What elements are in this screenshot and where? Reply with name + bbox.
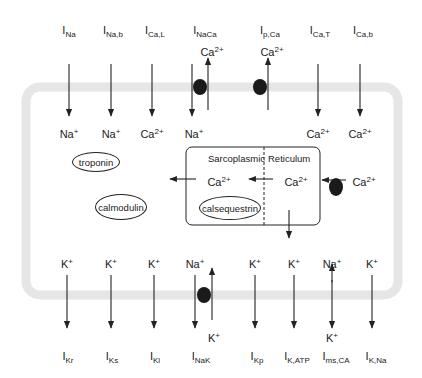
label-imsca: Ims,CA (322, 350, 349, 367)
ion-inaca-in: Na+ (185, 126, 204, 140)
label-ical: ICa,L (145, 24, 165, 41)
label-iki: IKl (150, 350, 160, 367)
ion-icab-in: Ca2+ (348, 126, 371, 140)
ion-imsca-in: Na+ (323, 256, 342, 270)
ion-iki-in: K+ (148, 256, 160, 270)
ion-inak-in: Na+ (186, 256, 205, 270)
pca-pump-icon (253, 79, 267, 95)
label-ikr: IKr (62, 350, 73, 367)
serca-pump-icon (329, 178, 343, 196)
ion-ikna-in: K+ (366, 256, 378, 270)
calmodulin-buffer: calmodulin (95, 194, 147, 220)
label-icat: ICa,T (310, 24, 330, 41)
label-ikatp: IK,ATP (284, 350, 310, 367)
cell-diagram: INa INa,b ICa,L INaCa Ip,Ca ICa,T ICa,b … (0, 0, 422, 378)
label-inak: INaK (192, 350, 211, 367)
ion-imsca-out: K+ (326, 330, 338, 344)
ca-cyto: Ca2+ (352, 174, 375, 188)
ion-inab-in: Na+ (102, 126, 121, 140)
ion-ina-in: Na+ (60, 126, 79, 140)
ion-inak-out: K+ (208, 330, 220, 344)
ca-nsr: Ca2+ (284, 174, 307, 188)
calsequestrin-buffer: calsequestrin (199, 196, 261, 220)
label-ikna: IK,Na (366, 350, 387, 367)
sr-label-left: Sarcoplasmic (208, 153, 265, 164)
ion-naca-out: Ca2+ (200, 44, 223, 58)
label-inab: INa,b (103, 24, 123, 41)
label-iks: IKs (106, 350, 118, 367)
label-ina: INa (62, 24, 75, 41)
ion-ikp-in: K+ (249, 256, 261, 270)
ion-pca-out: Ca2+ (260, 44, 283, 58)
ion-icat-in: Ca2+ (306, 126, 329, 140)
nak-pump-icon (197, 287, 211, 303)
naca-exchanger-icon (193, 79, 207, 95)
ion-ikatp-in: K+ (288, 256, 300, 270)
ca-jsr: Ca2+ (207, 174, 230, 188)
ion-iks-in: K+ (105, 256, 117, 270)
label-ikp: IKp (251, 350, 264, 367)
ion-ikr-in: K+ (61, 256, 73, 270)
label-inaca: INaCa (193, 24, 217, 41)
label-ipca: Ip,Ca (260, 24, 280, 41)
troponin-buffer: troponin (72, 152, 120, 172)
sr-label-right: Reticulum (268, 153, 310, 164)
ion-ical-in: Ca2+ (140, 126, 163, 140)
label-icab: ICa,b (353, 24, 373, 41)
